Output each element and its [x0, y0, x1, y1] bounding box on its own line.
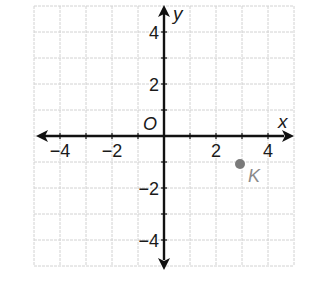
x-tick-label: −2	[102, 141, 123, 161]
x-tick-label: −4	[50, 141, 71, 161]
y-tick-label: −4	[138, 231, 159, 251]
x-tick-label: 4	[263, 141, 273, 161]
x-axis-label: x	[277, 111, 289, 132]
point-k	[235, 159, 245, 169]
y-tick-label: 4	[149, 23, 159, 43]
y-tick-label: 2	[149, 75, 159, 95]
axes	[36, 5, 294, 270]
y-axis-label: y	[171, 3, 184, 24]
y-tick-label: −2	[138, 179, 159, 199]
point-label-k: K	[248, 166, 261, 186]
x-tick-label: 2	[211, 141, 221, 161]
origin-label: O	[143, 114, 157, 134]
plotted-points: K	[235, 159, 261, 186]
coordinate-plane: −4−22442−2−4 x y O K	[0, 0, 317, 295]
